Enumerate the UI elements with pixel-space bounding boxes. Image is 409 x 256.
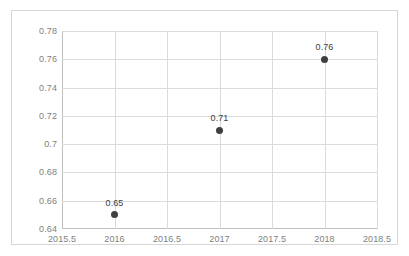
x-axis-tick-label: 2018 <box>314 234 334 244</box>
y-axis-tick-label: 0.72 <box>39 111 57 121</box>
x-axis-tick-label: 2016 <box>104 234 124 244</box>
x-axis-tick-label: 2015.5 <box>48 234 76 244</box>
y-axis-tick-label: 0.7 <box>44 139 57 149</box>
y-axis-tick-label: 0.78 <box>39 26 57 36</box>
chart-frame: 0.640.660.680.70.720.740.760.78 0.650.71… <box>11 10 398 245</box>
y-axis-tick-label: 0.64 <box>39 224 57 234</box>
plot-area: 0.650.710.76 <box>62 31 377 229</box>
data-point-label: 0.71 <box>211 113 229 123</box>
data-point-label: 0.65 <box>106 198 124 208</box>
gridline-vertical <box>377 31 378 229</box>
y-axis-tick-label: 0.76 <box>39 54 57 64</box>
data-point[interactable] <box>321 56 328 63</box>
data-point[interactable] <box>216 127 223 134</box>
data-point[interactable] <box>111 211 118 218</box>
x-axis-tick-label: 2016.5 <box>153 234 181 244</box>
x-axis-tick-label: 2017.5 <box>258 234 286 244</box>
scatter-chart: 0.640.660.680.70.720.740.760.78 0.650.71… <box>0 0 409 256</box>
y-axis-tick-label: 0.68 <box>39 167 57 177</box>
y-axis-line <box>62 31 63 229</box>
x-axis-tick-label: 2017 <box>209 234 229 244</box>
x-axis-tick-label: 2018.5 <box>363 234 391 244</box>
data-point-label: 0.76 <box>316 42 334 52</box>
y-axis-tick-label: 0.66 <box>39 196 57 206</box>
gridline-vertical <box>167 31 168 229</box>
gridline-vertical <box>272 31 273 229</box>
x-axis-tick-labels: 2015.520162016.520172017.520182018.5 <box>62 234 377 248</box>
y-axis-tick-label: 0.74 <box>39 83 57 93</box>
y-axis-tick-labels: 0.640.660.680.70.720.740.760.78 <box>12 31 57 229</box>
